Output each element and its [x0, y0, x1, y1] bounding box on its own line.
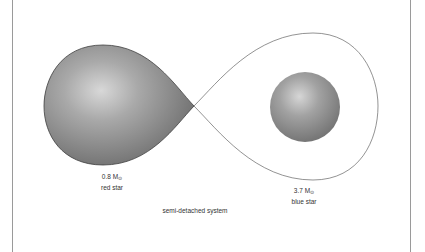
diagram-caption: semi-detached system [140, 206, 250, 215]
red-star-mass: 0.8 M⊙ [82, 172, 142, 183]
red-star-label: 0.8 M⊙ red star [82, 172, 142, 192]
solar-mass-symbol: ⊙ [118, 176, 122, 181]
blue-star [270, 72, 340, 142]
blue-star-mass: 3.7 M⊙ [272, 186, 336, 197]
red-star-name: red star [82, 183, 142, 192]
solar-mass-symbol: ⊙ [310, 190, 314, 195]
blue-star-name: blue star [272, 197, 336, 206]
red-star-roche-lobe [44, 45, 194, 165]
blue-star-label: 3.7 M⊙ blue star [272, 186, 336, 206]
